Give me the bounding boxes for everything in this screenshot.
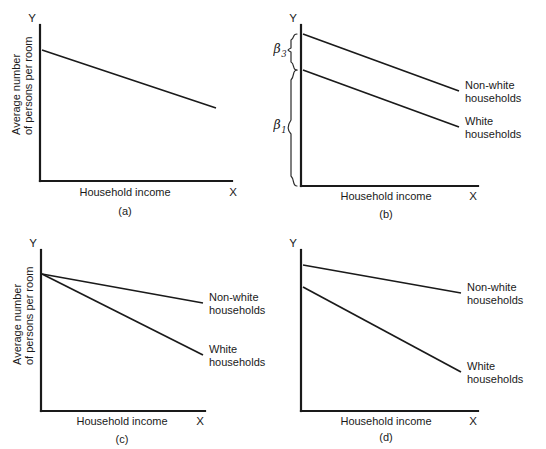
panel-d-plot: Y Non-white households White households … <box>273 225 546 449</box>
panel-c-plot: Y Average number of persons per room Non… <box>0 225 273 449</box>
legend-white-line2: households <box>209 356 266 368</box>
beta3-symbol: β <box>273 41 281 56</box>
figure-four-panel-regression: Y Average number of persons per room Hou… <box>0 0 546 449</box>
x-axis-letter: X <box>229 186 237 198</box>
x-axis-title: Household income <box>79 186 170 198</box>
panel-caption-c: (c) <box>116 433 129 445</box>
regression-line-pooled <box>42 50 216 108</box>
x-axis-letter: X <box>469 190 477 202</box>
beta1-subscript: 1 <box>281 125 286 135</box>
regression-line-white <box>303 70 459 127</box>
legend-white-line2: households <box>465 128 522 140</box>
legend-nonwhite-line1: Non-white <box>465 79 515 91</box>
legend-nonwhite-line2: households <box>209 304 266 316</box>
y-axis-title-line2: of persons per room <box>22 37 34 135</box>
beta3-subscript: 3 <box>281 49 286 59</box>
y-axis-title-line1: Average number <box>11 284 23 365</box>
panel-a-plot: Y Average number of persons per room Hou… <box>0 0 273 224</box>
regression-line-nonwhite <box>303 34 459 91</box>
beta1-symbol: β <box>273 117 281 132</box>
y-axis-letter: Y <box>29 237 37 249</box>
legend-white-line2: households <box>467 373 524 385</box>
y-axis-letter: Y <box>289 12 297 24</box>
legend-nonwhite-line1: Non-white <box>467 281 517 293</box>
panel-d: Y Non-white households White households … <box>273 225 546 449</box>
y-axis-title-line1: Average number <box>10 54 22 135</box>
legend-nonwhite-line1: Non-white <box>209 291 259 303</box>
y-axis-letter: Y <box>28 12 36 24</box>
regression-line-nonwhite <box>303 265 461 293</box>
x-axis-title: Household income <box>340 190 431 202</box>
legend-white-line1: White <box>209 343 237 355</box>
panel-caption-d: (d) <box>379 431 392 443</box>
x-axis-title: Household income <box>76 415 167 427</box>
panel-a: Y Average number of persons per room Hou… <box>0 0 273 224</box>
regression-line-white <box>42 274 203 355</box>
y-axis-letter: Y <box>289 237 297 249</box>
legend-white-line1: White <box>465 115 493 127</box>
x-axis-letter: X <box>469 415 477 427</box>
panel-b-plot: Y β 3 β 1 Non-white households White h <box>273 0 546 224</box>
panel-caption-a: (a) <box>118 205 131 217</box>
legend-white-line1: White <box>467 360 495 372</box>
regression-line-white <box>303 287 461 372</box>
regression-line-nonwhite <box>42 274 203 303</box>
legend-nonwhite-line2: households <box>467 294 524 306</box>
x-axis-title: Household income <box>340 415 431 427</box>
legend-nonwhite-line2: households <box>465 92 522 104</box>
brace-beta1: β 1 <box>273 70 297 186</box>
panel-b: Y β 3 β 1 Non-white households White h <box>273 0 546 224</box>
y-axis-title-line2: of persons per room <box>23 267 35 365</box>
panel-c: Y Average number of persons per room Non… <box>0 225 273 449</box>
brace-beta3: β 3 <box>273 34 297 70</box>
x-axis-letter: X <box>196 415 204 427</box>
panel-caption-b: (b) <box>379 208 392 220</box>
